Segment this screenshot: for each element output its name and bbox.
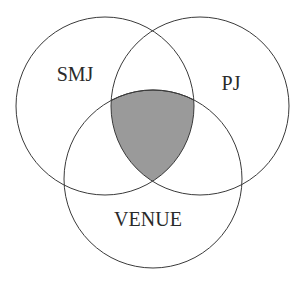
triple-intersection-region bbox=[64, 90, 242, 268]
label-pj: PJ bbox=[222, 72, 241, 94]
venn-diagram: SMJ PJ VENUE bbox=[0, 0, 306, 285]
label-venue: VENUE bbox=[114, 208, 182, 230]
label-smj: SMJ bbox=[57, 63, 94, 85]
